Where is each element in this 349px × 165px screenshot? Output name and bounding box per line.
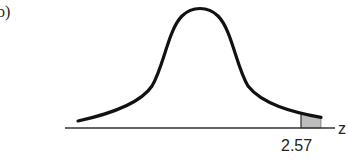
axis-variable-label: z (338, 120, 346, 138)
bell-curve (78, 9, 321, 122)
critical-value-label: 2.57 (281, 137, 312, 155)
